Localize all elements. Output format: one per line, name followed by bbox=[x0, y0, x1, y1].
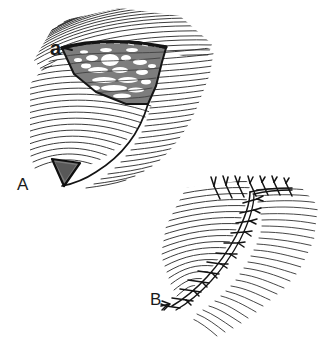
panel-label-a: A bbox=[17, 176, 28, 193]
figure-root: A B a bbox=[0, 0, 329, 349]
callout-label-a: a bbox=[50, 38, 61, 58]
panel-label-b: B bbox=[150, 291, 161, 308]
